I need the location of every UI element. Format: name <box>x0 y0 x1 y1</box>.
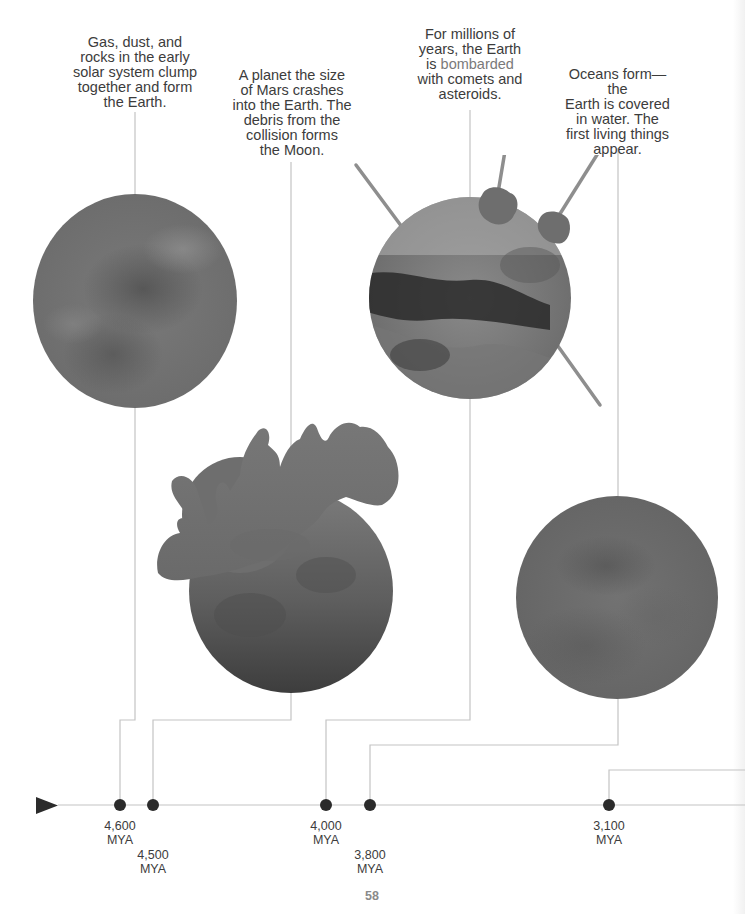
caption-highlight-term: bombarded <box>441 56 514 72</box>
moon-collision-illustration <box>150 405 400 697</box>
date-value: 4,600 <box>90 819 150 833</box>
date-value: 3,800 <box>340 848 400 862</box>
caption-line: together and form <box>70 80 200 95</box>
caption-text: is <box>426 56 441 72</box>
caption-line: asteroids. <box>408 87 532 102</box>
event-caption-4500: A planet the size of Mars crashes into t… <box>228 68 356 158</box>
forming-earth-illustration <box>33 194 237 408</box>
date-unit: MYA <box>123 862 183 876</box>
timeline-dot-4500 <box>147 799 159 811</box>
caption-line: Earth is covered <box>560 97 675 112</box>
event-caption-4000: For millions of years, the Earth is bomb… <box>408 27 532 102</box>
play-arrow-icon <box>36 797 58 814</box>
date-value: 4,500 <box>123 848 183 862</box>
date-label-3100: 3,100 MYA <box>579 819 639 847</box>
date-unit: MYA <box>90 833 150 847</box>
caption-line: debris from the <box>228 113 356 128</box>
date-label-3800: 3,800 MYA <box>340 848 400 876</box>
caption-line: collision forms <box>228 128 356 143</box>
event-caption-4600: Gas, dust, and rocks in the early solar … <box>70 35 200 110</box>
caption-line: Oceans form—the <box>560 67 675 97</box>
caption-line: with comets and <box>408 72 532 87</box>
caption-line: A planet the size <box>228 68 356 83</box>
event-caption-3800: Oceans form—the Earth is covered in wate… <box>560 67 675 157</box>
bombarded-earth-illustration <box>350 155 610 415</box>
caption-line: first living things <box>560 127 675 142</box>
caption-line: the Earth. <box>70 95 200 110</box>
caption-line: the Moon. <box>228 143 356 158</box>
timeline-dot-3100 <box>603 799 615 811</box>
date-label-4600: 4,600 MYA <box>90 819 150 847</box>
timeline-dot-4000 <box>320 799 332 811</box>
timeline-dot-4600 <box>114 799 126 811</box>
date-unit: MYA <box>340 862 400 876</box>
ocean-earth-illustration <box>516 496 718 699</box>
date-label-4000: 4,000 MYA <box>296 819 356 847</box>
caption-line: of Mars crashes <box>228 83 356 98</box>
date-unit: MYA <box>296 833 356 847</box>
caption-line: For millions of <box>408 27 532 42</box>
caption-line: into the Earth. The <box>228 98 356 113</box>
date-value: 4,000 <box>296 819 356 833</box>
caption-line: years, the Earth <box>408 42 532 57</box>
date-unit: MYA <box>579 833 639 847</box>
date-label-4500: 4,500 MYA <box>123 848 183 876</box>
date-value: 3,100 <box>579 819 639 833</box>
caption-line: solar system clump <box>70 65 200 80</box>
caption-line: in water. The <box>560 112 675 127</box>
caption-line: Gas, dust, and <box>70 35 200 50</box>
page-number: 58 <box>357 889 387 903</box>
caption-line: rocks in the early <box>70 50 200 65</box>
timeline-dot-3800 <box>364 799 376 811</box>
caption-line: is bombarded <box>408 57 532 72</box>
